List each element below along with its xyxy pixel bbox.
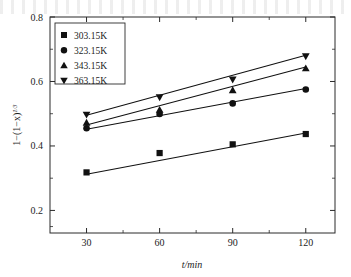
y-tick-label: 0.4 bbox=[31, 140, 44, 151]
x-tick-label: 120 bbox=[298, 237, 313, 248]
x-tick-label: 60 bbox=[155, 237, 165, 248]
data-point-circle bbox=[61, 47, 67, 53]
y-axis-tick-labels: 0.20.40.60.8 bbox=[31, 12, 44, 216]
data-point-triangle-down bbox=[229, 77, 237, 84]
legend-label: 323.15K bbox=[74, 46, 107, 56]
data-point-square bbox=[230, 141, 236, 147]
data-point-triangle-up bbox=[83, 119, 91, 126]
legend-label: 363.15K bbox=[74, 76, 107, 86]
data-point-circle bbox=[83, 125, 90, 132]
chart-canvas: 0.20.40.60.8 306090120 t/min 1−(1−x)1/3 … bbox=[0, 0, 351, 277]
legend: 303.15K323.15K343.15K363.15K bbox=[55, 23, 125, 86]
y-axis-title: 1−(1−x)1/3 bbox=[11, 104, 24, 146]
y-tick-label: 0.8 bbox=[31, 12, 44, 23]
fit-line-323.15K bbox=[87, 89, 306, 130]
y-axis-title-group: 1−(1−x)1/3 bbox=[11, 104, 24, 146]
x-tick-label: 30 bbox=[82, 237, 92, 248]
figure-container: 0.20.40.60.8 306090120 t/min 1−(1−x)1/3 … bbox=[0, 0, 351, 277]
fit-line-303.15K bbox=[87, 133, 306, 174]
data-point-triangle-down bbox=[302, 53, 310, 60]
y-tick-label: 0.2 bbox=[31, 205, 44, 216]
data-point-square bbox=[157, 150, 163, 156]
data-point-circle bbox=[302, 86, 309, 93]
data-point-square bbox=[61, 32, 67, 38]
x-tick-label: 90 bbox=[228, 237, 238, 248]
y-tick-label: 0.6 bbox=[31, 76, 44, 87]
data-point-triangle-down bbox=[156, 94, 164, 101]
x-axis-title: t/min bbox=[182, 259, 203, 270]
x-axis-tick-labels: 306090120 bbox=[82, 237, 314, 248]
legend-label: 303.15K bbox=[74, 31, 107, 41]
data-point-square bbox=[303, 131, 309, 137]
data-point-square bbox=[83, 169, 89, 175]
data-point-circle bbox=[229, 100, 236, 107]
legend-label: 343.15K bbox=[74, 61, 107, 71]
data-point-triangle-up bbox=[156, 106, 164, 113]
